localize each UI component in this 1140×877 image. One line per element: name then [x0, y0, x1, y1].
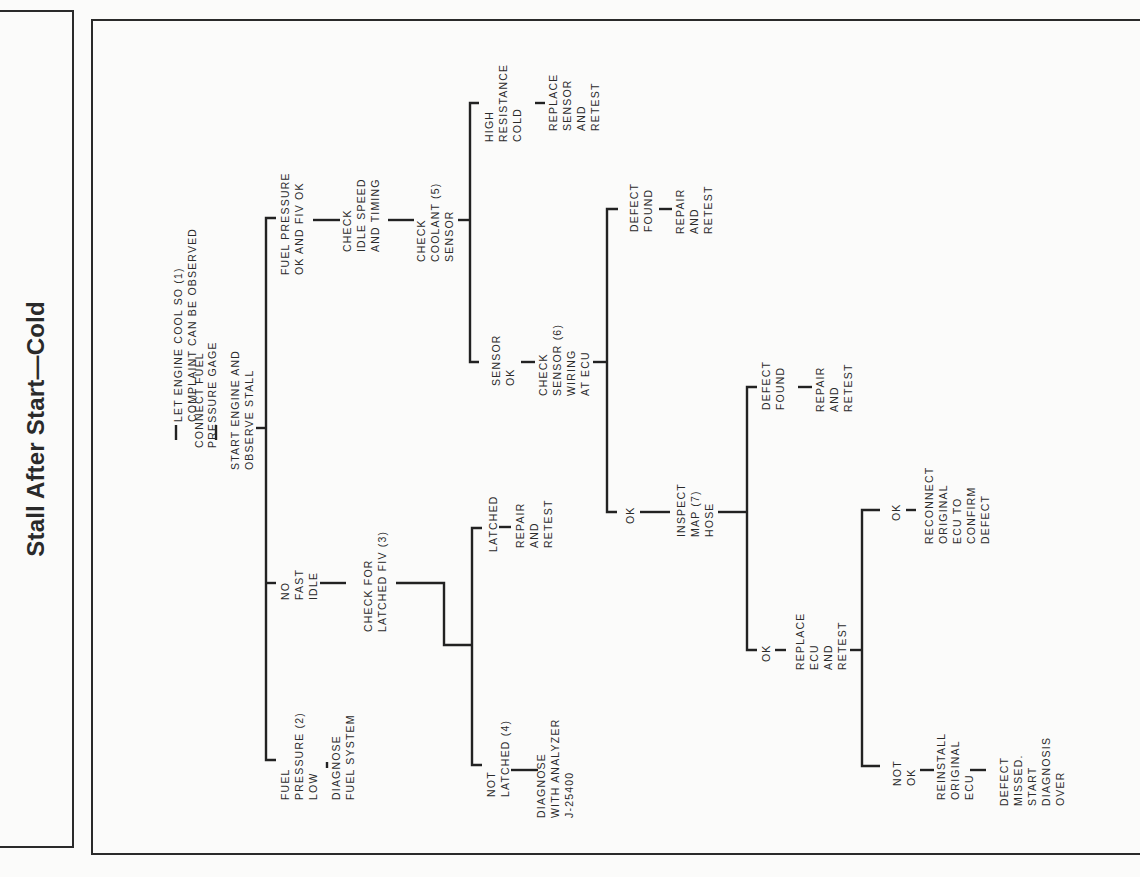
node-repair-retest-map: REPAIR AND RETEST	[814, 363, 854, 412]
svg-text:DIAGNOSE: DIAGNOSE	[330, 735, 342, 800]
svg-text:IDLE: IDLE	[307, 572, 319, 600]
svg-text:PRESSURE GAGE: PRESSURE GAGE	[206, 341, 218, 448]
node-reinstall-ecu: REINSTALL ORIGINAL ECU	[935, 733, 975, 800]
svg-text:OK: OK	[624, 506, 636, 524]
svg-text:ECU: ECU	[963, 774, 975, 800]
svg-text:COLD: COLD	[511, 108, 523, 142]
node-no-fast-idle: NO FAST IDLE	[279, 569, 319, 600]
svg-text:LATCHED: LATCHED	[487, 495, 499, 552]
svg-text:MAP (7): MAP (7)	[689, 490, 701, 537]
svg-text:RETEST: RETEST	[842, 363, 854, 412]
node-reconnect-ecu: RECONNECT ORIGINAL ECU TO CONFIRM DEFECT	[923, 467, 991, 544]
node-inspect-map-hose: INSPECT MAP (7) HOSE	[675, 483, 715, 537]
node-check-idle-speed: CHECK IDLE SPEED AND TIMING	[341, 178, 381, 252]
svg-text:RECONNECT: RECONNECT	[923, 467, 935, 544]
node-check-coolant-sensor: CHECK COOLANT (5) SENSOR	[415, 182, 455, 262]
svg-text:AND: AND	[688, 208, 700, 234]
node-defect-found-wiring: DEFECT FOUND	[628, 183, 654, 232]
svg-text:START ENGINE AND: START ENGINE AND	[229, 350, 241, 470]
svg-text:REPAIR: REPAIR	[814, 366, 826, 412]
svg-text:SENSOR (6): SENSOR (6)	[551, 324, 563, 396]
svg-text:RETEST: RETEST	[589, 82, 601, 131]
svg-text:ECU: ECU	[808, 644, 820, 670]
svg-text:ECU TO: ECU TO	[951, 498, 963, 545]
svg-text:DEFECT: DEFECT	[628, 183, 640, 232]
node-repair-retest-wiring: REPAIR AND RETEST	[674, 185, 714, 234]
svg-text:RETEST: RETEST	[702, 185, 714, 234]
svg-text:FUEL SYSTEM: FUEL SYSTEM	[344, 714, 356, 800]
svg-text:CHECK: CHECK	[341, 209, 353, 252]
svg-text:REPLACE: REPLACE	[547, 74, 559, 131]
svg-text:RETEST: RETEST	[542, 499, 554, 548]
svg-text:WITH ANALYZER: WITH ANALYZER	[549, 719, 561, 818]
node-defect-missed: DEFECT MISSED. START DIAGNOSIS OVER	[998, 737, 1066, 806]
svg-text:OK AND FIV OK: OK AND FIV OK	[293, 182, 305, 275]
node-ok-map: OK	[760, 644, 772, 662]
svg-text:FUEL: FUEL	[279, 768, 291, 800]
svg-text:SENSOR: SENSOR	[443, 210, 455, 262]
svg-text:NO: NO	[279, 582, 291, 600]
svg-text:FOUND: FOUND	[642, 189, 654, 232]
node-diagnose-analyzer: DIAGNOSE WITH ANALYZER J-25400	[535, 719, 575, 818]
svg-text:NOT: NOT	[485, 771, 497, 797]
node-start-engine: START ENGINE AND OBSERVE STALL	[229, 350, 255, 470]
svg-text:FOUND: FOUND	[774, 367, 786, 410]
svg-text:AND: AND	[828, 386, 840, 412]
svg-text:DEFECT: DEFECT	[979, 495, 991, 544]
node-high-resistance-cold: HIGH RESISTANCE COLD	[483, 64, 523, 142]
node-not-latched: NOT LATCHED (4)	[485, 720, 511, 797]
svg-text:AND TIMING: AND TIMING	[369, 178, 381, 252]
svg-text:NOT: NOT	[891, 760, 903, 786]
svg-text:REPAIR: REPAIR	[674, 188, 686, 234]
svg-text:HOSE: HOSE	[703, 502, 715, 537]
svg-text:CHECK FOR: CHECK FOR	[362, 559, 374, 632]
svg-text:LOW: LOW	[307, 772, 319, 800]
node-diagnose-fuel-system: DIAGNOSE FUEL SYSTEM	[330, 714, 356, 800]
svg-text:START: START	[1026, 767, 1038, 806]
svg-text:AND: AND	[528, 522, 540, 548]
svg-text:ORIGINAL: ORIGINAL	[937, 484, 949, 544]
svg-text:AND: AND	[822, 644, 834, 670]
svg-text:LET ENGINE COOL SO (1): LET ENGINE COOL SO (1)	[172, 267, 184, 422]
node-sensor-ok: SENSOR OK	[490, 334, 516, 386]
node-repair-retest-latched: REPAIR AND RETEST	[514, 499, 554, 548]
svg-text:J-25400: J-25400	[563, 772, 575, 818]
svg-text:REPLACE: REPLACE	[794, 613, 806, 670]
svg-text:MISSED.: MISSED.	[1012, 754, 1024, 806]
node-replace-ecu: REPLACE ECU AND RETEST	[794, 613, 848, 670]
svg-text:ORIGINAL: ORIGINAL	[949, 740, 961, 800]
svg-text:RETEST: RETEST	[836, 621, 848, 670]
svg-text:OK: OK	[504, 368, 516, 386]
svg-text:OVER: OVER	[1054, 771, 1066, 806]
node-check-sensor-wiring: CHECK SENSOR (6) WIRING AT ECU	[537, 324, 591, 396]
svg-text:FUEL PRESSURE: FUEL PRESSURE	[279, 172, 291, 275]
svg-text:WIRING: WIRING	[565, 350, 577, 396]
node-connect-gage: CONNECT FUEL PRESSURE GAGE	[193, 341, 218, 448]
node-latched: LATCHED	[487, 495, 499, 552]
node-fuel-pressure-ok: FUEL PRESSURE OK AND FIV OK	[279, 172, 305, 275]
node-fuel-pressure-low: FUEL PRESSURE (2) LOW	[279, 712, 319, 800]
svg-text:AT ECU: AT ECU	[579, 351, 591, 396]
flowchart: LET ENGINE COOL SO (1) COMPLAINT CAN BE …	[0, 0, 1140, 877]
svg-text:HIGH: HIGH	[483, 111, 495, 142]
svg-text:RESISTANCE: RESISTANCE	[497, 64, 509, 142]
svg-text:INSPECT: INSPECT	[675, 483, 687, 537]
node-check-latched-fiv: CHECK FOR LATCHED FIV (3)	[362, 531, 388, 632]
node-ok-ecu: OK	[890, 503, 902, 521]
svg-text:DEFECT: DEFECT	[998, 757, 1010, 806]
svg-text:FAST: FAST	[293, 569, 305, 600]
node-defect-found-map: DEFECT FOUND	[760, 361, 786, 410]
svg-text:OK: OK	[905, 768, 917, 786]
svg-text:AND: AND	[575, 105, 587, 131]
svg-text:DIAGNOSIS: DIAGNOSIS	[1040, 737, 1052, 806]
svg-text:COOLANT (5): COOLANT (5)	[429, 182, 441, 262]
svg-text:DIAGNOSE: DIAGNOSE	[535, 753, 547, 818]
node-replace-sensor: REPLACE SENSOR AND RETEST	[547, 74, 601, 131]
svg-text:IDLE SPEED: IDLE SPEED	[355, 178, 367, 252]
svg-text:PRESSURE (2): PRESSURE (2)	[293, 712, 305, 800]
svg-text:SENSOR: SENSOR	[490, 334, 502, 386]
node-ok-wiring: OK	[624, 506, 636, 524]
svg-text:CHECK: CHECK	[537, 353, 549, 396]
svg-text:CHECK: CHECK	[415, 219, 427, 262]
svg-text:REPAIR: REPAIR	[514, 502, 526, 548]
